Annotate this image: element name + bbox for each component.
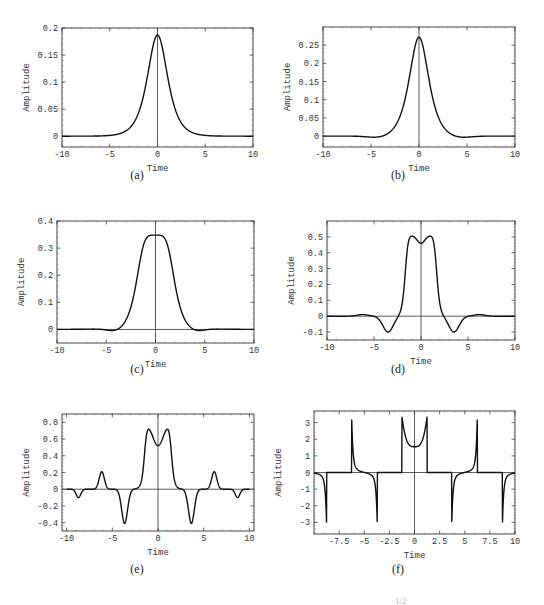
y-tick-label: 1 bbox=[305, 452, 310, 462]
x-tick-label: 10 bbox=[510, 537, 520, 547]
x-tick-label: 5 bbox=[465, 343, 470, 353]
x-tick-label: -5 bbox=[107, 534, 117, 544]
y-axis-label: Amplitude bbox=[22, 63, 32, 112]
y-tick-label: 0.15 bbox=[38, 51, 58, 61]
y-tick-label: -0.1 bbox=[303, 328, 323, 338]
y-tick-label: 0.3 bbox=[308, 265, 323, 275]
x-tick-label: -7.5 bbox=[329, 537, 349, 547]
x-tick-label: 10 bbox=[249, 346, 259, 356]
y-tick-label: 0.2 bbox=[38, 271, 53, 281]
figure-svg: -10-5051000.050.10.150.2TimeAmplitude-10… bbox=[0, 0, 544, 605]
x-tick-label: -10 bbox=[319, 343, 334, 353]
x-tick-label: 10 bbox=[248, 150, 258, 160]
chart-a: -10-5051000.050.10.150.2TimeAmplitude bbox=[22, 24, 258, 174]
x-tick-label: 10 bbox=[510, 150, 520, 160]
x-tick-label: 0 bbox=[155, 150, 160, 160]
y-tick-label: 0 bbox=[53, 485, 58, 495]
x-axis-label: Time bbox=[147, 548, 169, 558]
x-tick-label: 0 bbox=[153, 346, 158, 356]
y-tick-label: -0.4 bbox=[38, 519, 58, 529]
chart-c: -10-5051000.10.20.30.4TimeAmplitude bbox=[17, 217, 259, 370]
x-tick-label: 5 bbox=[202, 346, 207, 356]
chart-d: -10-50510-0.100.10.20.30.40.5TimeAmplitu… bbox=[287, 221, 520, 367]
panel-caption: (b) bbox=[378, 168, 418, 183]
y-axis-label: Amplitude bbox=[287, 256, 297, 305]
y-tick-label: 0.25 bbox=[299, 41, 319, 51]
y-tick-label: 0.1 bbox=[38, 298, 53, 308]
y-tick-label: 0.3 bbox=[38, 244, 53, 254]
y-tick-label: 0.2 bbox=[43, 24, 58, 34]
y-axis-label: Amplitude bbox=[283, 63, 293, 112]
y-tick-label: 0.05 bbox=[38, 105, 58, 115]
x-tick-label: -10 bbox=[49, 346, 64, 356]
x-tick-label: 0 bbox=[155, 534, 160, 544]
x-tick-label: 5 bbox=[203, 150, 208, 160]
x-tick-label: 5 bbox=[201, 534, 206, 544]
y-tick-label: 0 bbox=[305, 469, 310, 479]
y-tick-label: 0.1 bbox=[43, 78, 58, 88]
y-tick-label: 0 bbox=[318, 312, 323, 322]
figure-caption-fragment: 1/2 bbox=[60, 596, 500, 605]
y-tick-label: -0.2 bbox=[38, 502, 58, 512]
x-tick-label: -5 bbox=[359, 537, 369, 547]
x-tick-label: 10 bbox=[510, 343, 520, 353]
x-tick-label: 2.5 bbox=[432, 537, 447, 547]
y-tick-label: 0 bbox=[48, 325, 53, 335]
panel-caption: (d) bbox=[378, 362, 418, 377]
caption-fragment-text: 1/2 bbox=[395, 596, 407, 605]
y-tick-label: -2 bbox=[300, 502, 310, 512]
y-tick-label: 0.05 bbox=[299, 114, 319, 124]
panel-caption: (e) bbox=[117, 562, 157, 577]
y-tick-label: 0.2 bbox=[43, 469, 58, 479]
x-tick-label: -5 bbox=[105, 150, 115, 160]
x-tick-label: 0 bbox=[412, 537, 417, 547]
y-tick-label: 0.2 bbox=[304, 59, 319, 69]
x-tick-label: -10 bbox=[59, 534, 74, 544]
y-tick-label: 0.15 bbox=[299, 78, 319, 88]
chart-f: -7.5-5-2.502.557.510-3-2-10123TimeAmplit… bbox=[274, 411, 520, 561]
x-tick-label: 5 bbox=[462, 537, 467, 547]
x-tick-label: 0 bbox=[416, 150, 421, 160]
x-tick-label: -5 bbox=[369, 343, 379, 353]
panel-caption: (c) bbox=[117, 362, 157, 377]
y-axis-label: Amplitude bbox=[22, 448, 32, 497]
y-tick-label: -3 bbox=[300, 518, 310, 528]
y-axis-label: Amplitude bbox=[17, 258, 27, 307]
y-tick-label: 0 bbox=[314, 132, 319, 142]
x-tick-label: 7.5 bbox=[482, 537, 497, 547]
x-tick-label: -5 bbox=[101, 346, 111, 356]
x-tick-label: 0 bbox=[418, 343, 423, 353]
x-tick-label: -5 bbox=[366, 150, 376, 160]
panel-caption: (f) bbox=[378, 562, 418, 577]
x-tick-label: -10 bbox=[315, 150, 330, 160]
x-tick-label: 5 bbox=[464, 150, 469, 160]
y-tick-label: 0.6 bbox=[43, 435, 58, 445]
y-tick-label: 0.4 bbox=[308, 249, 323, 259]
panel-caption: (a) bbox=[117, 168, 157, 183]
y-tick-label: 0.5 bbox=[308, 233, 323, 243]
chart-b: -10-5051000.050.10.150.20.25TimeAmplitud… bbox=[283, 27, 520, 174]
y-tick-label: 2 bbox=[305, 435, 310, 445]
chart-e: -10-50510-0.4-0.200.20.40.60.8TimeAmplit… bbox=[22, 414, 255, 558]
x-tick-label: -2.5 bbox=[379, 537, 399, 547]
y-tick-label: 0.1 bbox=[308, 296, 323, 306]
y-tick-label: 0.4 bbox=[43, 452, 58, 462]
y-tick-label: 0.8 bbox=[43, 418, 58, 428]
y-axis-label: Amplitude bbox=[274, 448, 284, 497]
x-tick-label: -10 bbox=[54, 150, 69, 160]
x-tick-label: 10 bbox=[244, 534, 254, 544]
y-tick-label: 0 bbox=[53, 132, 58, 142]
y-tick-label: 0.2 bbox=[308, 280, 323, 290]
y-tick-label: 3 bbox=[305, 419, 310, 429]
y-tick-label: -1 bbox=[300, 485, 310, 495]
x-axis-label: Time bbox=[404, 551, 426, 561]
y-tick-label: 0.1 bbox=[304, 96, 319, 106]
y-tick-label: 0.4 bbox=[38, 217, 53, 227]
